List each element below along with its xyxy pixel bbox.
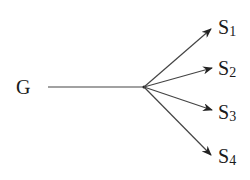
- node-s4-sub: 4: [229, 153, 236, 168]
- node-s4: S4: [218, 146, 236, 168]
- node-g-label: G: [16, 76, 30, 98]
- edge-g-s3: [144, 87, 212, 110]
- node-s4-main: S: [218, 145, 229, 167]
- node-s1-main: S: [218, 16, 229, 38]
- edge-g-s1: [144, 29, 211, 87]
- node-s2: S2: [218, 58, 236, 80]
- diagram-canvas: [0, 0, 250, 180]
- node-s2-sub: 2: [229, 65, 236, 80]
- node-s2-main: S: [218, 57, 229, 79]
- node-s1: S1: [218, 17, 236, 39]
- node-s3: S3: [218, 102, 236, 124]
- node-s3-main: S: [218, 101, 229, 123]
- node-g: G: [16, 77, 30, 97]
- node-s3-sub: 3: [229, 109, 236, 124]
- node-s1-sub: 1: [229, 24, 236, 39]
- edge-g-s4: [144, 87, 211, 155]
